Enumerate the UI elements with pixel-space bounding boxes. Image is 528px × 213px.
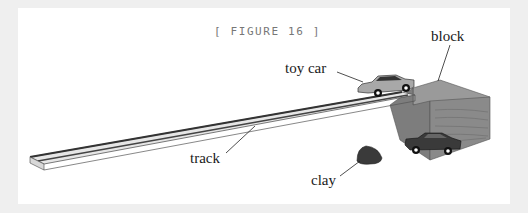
label-toy-car: toy car — [285, 60, 326, 77]
track-leader-line — [226, 126, 255, 153]
clay-leader-line — [340, 161, 360, 176]
label-block: block — [431, 28, 464, 45]
block-leader-line — [438, 45, 450, 81]
label-track: track — [190, 150, 220, 167]
label-clay: clay — [311, 172, 336, 189]
clay-icon — [357, 146, 382, 164]
toy-car-leader-line — [337, 72, 363, 82]
